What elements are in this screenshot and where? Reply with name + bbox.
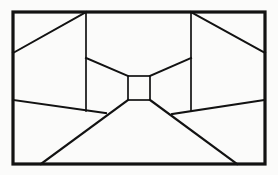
geometric-line-figure [0,0,278,175]
figure-background [0,0,278,175]
diagram-canvas [0,0,278,175]
